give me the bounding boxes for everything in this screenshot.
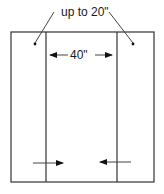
panel-diagram: up to 20" 40"	[0, 0, 164, 194]
right-leader-line	[109, 12, 133, 43]
width-label: 40"	[70, 48, 88, 62]
top-label: up to 20"	[61, 5, 109, 19]
left-dot	[34, 43, 37, 46]
left-leader-line	[35, 12, 54, 43]
right-dot	[132, 43, 135, 46]
